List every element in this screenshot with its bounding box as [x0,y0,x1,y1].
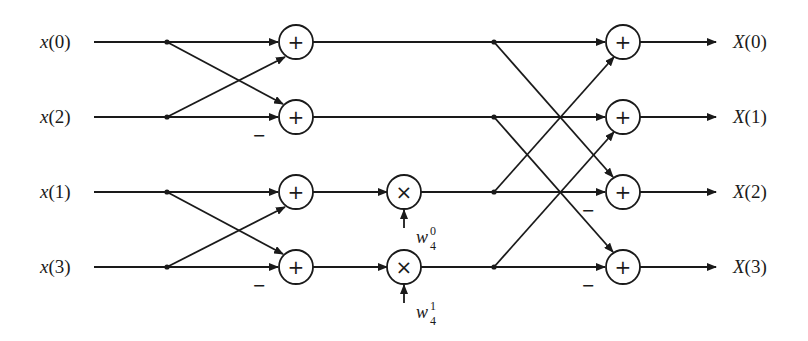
branch-dot [164,39,169,44]
plus-symbol: + [615,180,632,204]
plus-symbol: + [615,105,632,129]
output-label-2: X(2) [732,181,767,203]
branch-dot [164,114,169,119]
s2-cross [494,117,613,252]
fft-flow-graph: + + + + × × + + + + − − − − x(0) x(2) x(… [0,0,808,341]
branch-dot [491,39,496,44]
output-label-1: X(1) [732,106,767,128]
input-label-2: x(1) [39,181,71,203]
s1-cross [167,192,283,254]
branch-dot [164,189,169,194]
input-label-0: x(0) [39,31,71,53]
s1-cross [167,57,285,117]
branch-dot [491,264,496,269]
input-label-1: x(2) [39,106,71,128]
plus-symbol: + [615,255,632,279]
minus-sign: − [252,276,265,295]
svg-text:1: 1 [430,299,436,313]
s2-cross [494,132,614,267]
output-label-3: X(3) [732,256,767,278]
plus-symbol: + [288,105,305,129]
branch-dot [491,189,496,194]
minus-sign: − [581,276,594,295]
input-label-3: x(3) [39,256,71,278]
output-label-0: X(0) [732,31,767,53]
times-symbol: × [396,180,413,204]
s2-cross [494,57,614,192]
svg-text:w: w [416,302,428,322]
minus-sign: − [581,201,594,220]
svg-text:w: w [416,227,428,247]
svg-text:4: 4 [430,239,436,253]
s2-cross [494,42,613,177]
twiddle-label-1: w 1 4 [416,299,436,328]
svg-text:0: 0 [430,224,436,238]
plus-symbol: + [615,30,632,54]
plus-symbol: + [288,30,305,54]
s1-cross [167,207,285,267]
s1-cross [167,42,283,104]
twiddle-label-0: w 0 4 [416,224,436,253]
minus-sign: − [252,126,265,145]
branch-dot [164,264,169,269]
plus-symbol: + [288,180,305,204]
branch-dot [491,114,496,119]
times-symbol: × [396,255,413,279]
plus-symbol: + [288,255,305,279]
svg-text:4: 4 [430,314,436,328]
